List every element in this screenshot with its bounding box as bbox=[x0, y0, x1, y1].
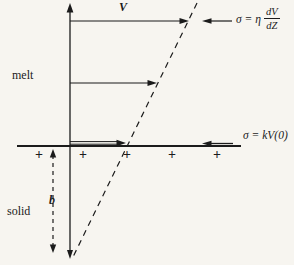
friction-stress-equation: σ = kV(0) bbox=[243, 129, 288, 141]
boundary-thickness-down-arrowhead-icon bbox=[50, 245, 56, 254]
viscous-stress-equation: σ = η dV dZ bbox=[236, 6, 280, 31]
boundary-thickness-up-arrowhead-icon bbox=[50, 149, 56, 158]
viscous-stress-fraction: dV dZ bbox=[264, 6, 280, 31]
plus-sign: + bbox=[76, 147, 90, 162]
z-axis-up-arrowhead-icon bbox=[67, 3, 74, 13]
plus-sign: + bbox=[165, 147, 179, 162]
z-axis-down-arrowhead-icon bbox=[67, 250, 73, 259]
velocity-profile-diagram: melt solid V b σ = η dV dZ σ = kV(0) + +… bbox=[0, 0, 294, 265]
velocity-arrow-mid-head-icon bbox=[148, 80, 158, 86]
plus-sign: + bbox=[210, 147, 224, 162]
boundary-thickness-label: b bbox=[49, 194, 55, 206]
velocity-gradient-dashed-line bbox=[73, 3, 197, 257]
fraction-numerator: dV bbox=[264, 6, 280, 19]
viscous-stress-lhs: σ = η bbox=[236, 13, 261, 25]
melt-label: melt bbox=[12, 69, 33, 81]
fraction-denominator: dZ bbox=[266, 19, 277, 31]
velocity-label: V bbox=[119, 1, 127, 13]
solid-label: solid bbox=[7, 205, 30, 217]
plus-sign: + bbox=[120, 147, 134, 162]
plus-sign: + bbox=[32, 147, 46, 162]
viscous-stress-arrow-head-icon bbox=[202, 18, 212, 24]
